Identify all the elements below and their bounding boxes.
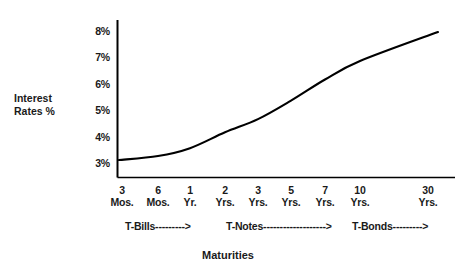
x-tick-unit: Yrs.: [402, 196, 454, 208]
y-axis-title-line1: Interest: [14, 92, 78, 105]
x-tick-8: 30Yrs.: [402, 184, 454, 208]
y-tick-7pct: 7%: [82, 52, 110, 63]
x-tick-number: 30: [402, 184, 454, 196]
y-tick-label: 6%: [82, 79, 110, 90]
annotation-t-notes: T-Notes------------------->: [226, 220, 332, 232]
yield-curve-chart: Interest Rates % 8%7%6%5%4%3% 3Mos.6Mos.…: [0, 0, 462, 276]
y-tick-label: 8%: [82, 26, 110, 37]
yield-curve-line: [119, 32, 438, 160]
y-tick-label: 7%: [82, 52, 110, 63]
x-axis-title-text: Maturities: [202, 249, 254, 261]
y-tick-4pct: 4%: [82, 132, 110, 143]
y-tick-3pct: 3%: [82, 158, 110, 169]
x-axis-title: Maturities: [0, 249, 462, 261]
y-tick-8pct: 8%: [82, 26, 110, 37]
x-tick-unit: Yrs.: [334, 196, 386, 208]
x-tick-number: 10: [334, 184, 386, 196]
annotation-t-bills: T-Bills--------->: [125, 220, 191, 232]
annotation-t-bonds: T-Bonds--------->: [352, 220, 428, 232]
y-tick-label: 4%: [82, 132, 110, 143]
y-tick-label: 5%: [82, 105, 110, 116]
y-axis-title-line2: Rates %: [14, 105, 78, 118]
y-axis-title: Interest Rates %: [14, 92, 78, 118]
y-tick-6pct: 6%: [82, 79, 110, 90]
y-tick-label: 3%: [82, 158, 110, 169]
chart-plot-area: [0, 0, 462, 276]
x-tick-7: 10Yrs.: [334, 184, 386, 208]
y-tick-5pct: 5%: [82, 105, 110, 116]
